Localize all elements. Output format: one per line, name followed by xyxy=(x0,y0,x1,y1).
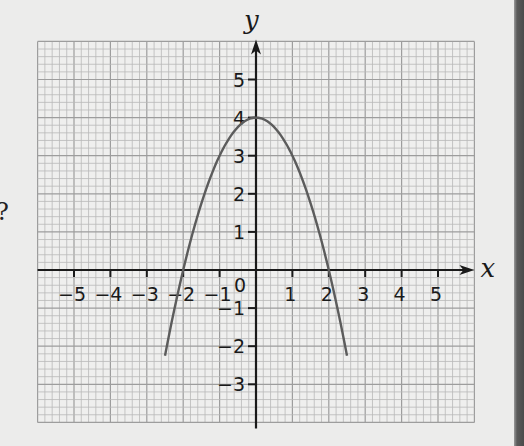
parabola-chart: −5−4−3−2−112345−3−2−1123450 x y xyxy=(0,0,524,446)
y-tick-label: 3 xyxy=(233,145,245,167)
x-tick-label: 5 xyxy=(430,283,442,305)
y-axis-label: y xyxy=(243,5,259,35)
x-axis-label: x xyxy=(480,253,495,283)
origin-label: 0 xyxy=(234,274,246,296)
x-tick-label: −5 xyxy=(58,283,86,305)
y-tick-label: −1 xyxy=(217,297,245,319)
page-edge-bar xyxy=(514,0,524,446)
y-tick-label: 1 xyxy=(233,221,245,243)
x-tick-label: 1 xyxy=(284,283,296,305)
x-tick-label: 4 xyxy=(394,283,406,305)
x-tick-label: 3 xyxy=(357,283,369,305)
y-tick-label: −3 xyxy=(217,373,245,395)
graph-page: ? −5−4−3−2−112345−3−2−1123450 x y xyxy=(0,0,524,446)
y-tick-label: 5 xyxy=(233,69,245,91)
x-tick-label: 2 xyxy=(321,283,333,305)
y-tick-label: −2 xyxy=(217,335,245,357)
x-tick-label: −3 xyxy=(131,283,159,305)
y-tick-label: 2 xyxy=(233,183,245,205)
x-tick-label: −2 xyxy=(167,283,195,305)
x-tick-label: −4 xyxy=(94,283,122,305)
